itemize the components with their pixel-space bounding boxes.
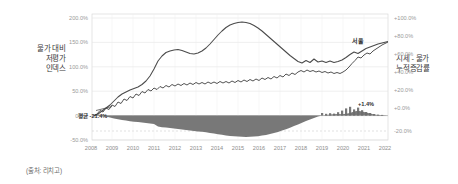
source-note: (출처: 리치고) <box>26 166 62 175</box>
line-end-annotation: 서울 <box>352 36 364 45</box>
right-tick-40: +40.0% <box>394 69 428 75</box>
right-tick-60: +60.0% <box>394 51 428 57</box>
left-axis-title-line-1: 물가 대비 <box>16 44 66 54</box>
left-tick-100: 100.0% <box>54 64 88 70</box>
right-tick-20: +20.0% <box>394 87 428 93</box>
left-tick-150: 150.0% <box>54 39 88 45</box>
right-tick-80: +80.0% <box>394 33 428 39</box>
left-axis-title-line-2: 저평가 <box>16 54 66 64</box>
right-tick-0: +0.0% <box>394 105 428 111</box>
average-annotation: 평균 -21.4% <box>78 112 107 120</box>
current-value-annotation: +1.4% <box>358 101 374 107</box>
left-tick-200: 200.0% <box>54 15 88 21</box>
left-tick-neg50: -50.0% <box>54 137 88 143</box>
right-tick-neg20: -20.0% <box>394 128 428 134</box>
left-tick-50: 50.0% <box>54 88 88 94</box>
x-tick-2022: 2022 <box>373 145 397 151</box>
right-tick-100: +100.0% <box>394 15 428 21</box>
chart-root: 물가 대비 저평가 인덱스 시세 - 물가 누적증감률 200.0% 150.0… <box>0 0 458 184</box>
